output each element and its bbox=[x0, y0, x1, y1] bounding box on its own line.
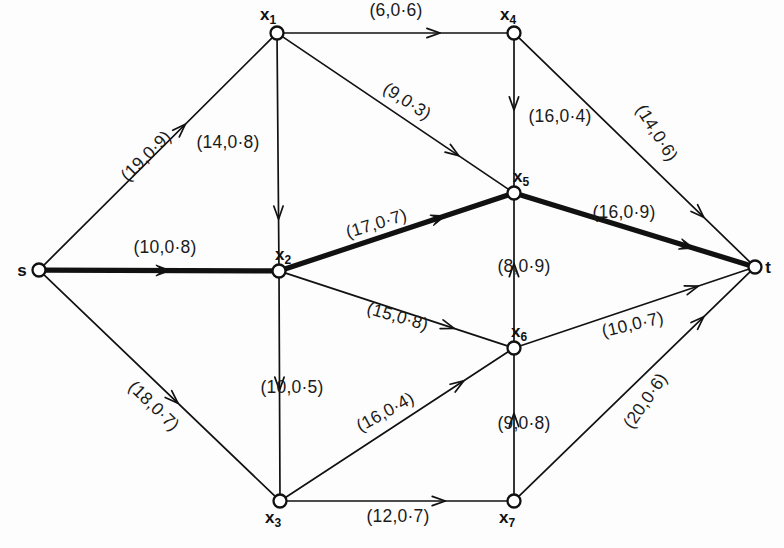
edge-label-x5-t: (16,0·9) bbox=[593, 202, 656, 222]
arrowhead-x1-x5 bbox=[445, 144, 459, 155]
edge-label-s-x1: (19,0·9) bbox=[116, 126, 175, 185]
node-label-x5: x5 bbox=[513, 167, 529, 189]
edge-label-x1-x5: (9,0·3) bbox=[380, 78, 435, 124]
arrowheads-layer bbox=[156, 28, 704, 505]
edge-s-x3 bbox=[44, 275, 275, 496]
edge-label-s-x2: (10,0·8) bbox=[134, 237, 197, 257]
edge-label-x6-x5: (8,0·9) bbox=[498, 256, 551, 276]
edge-label-x7-t: (20,0·6) bbox=[619, 369, 671, 432]
node-label-s: s bbox=[17, 261, 26, 280]
node-label-x1: x1 bbox=[260, 5, 276, 27]
node-label-x2: x2 bbox=[275, 245, 291, 267]
edge-x1-x5 bbox=[283, 37, 508, 189]
edge-label-x4-x5: (16,0·4) bbox=[529, 106, 592, 126]
edge-label-x6-t: (10,0·7) bbox=[600, 307, 666, 341]
node-x1 bbox=[271, 27, 284, 40]
edge-x1-x2 bbox=[277, 40, 279, 264]
node-x5 bbox=[508, 187, 521, 200]
node-label-x6: x6 bbox=[511, 322, 527, 344]
node-x4 bbox=[508, 27, 521, 40]
edge-x7-t bbox=[519, 272, 750, 496]
edge-label-x1-x4: (6,0·6) bbox=[370, 0, 423, 20]
edge-label-s-x3: (18,0·7) bbox=[125, 377, 184, 435]
edge-x3-x6 bbox=[286, 352, 508, 497]
node-t bbox=[749, 261, 762, 274]
edge-label-x1-x2: (14,0·8) bbox=[197, 132, 260, 152]
node-label-x4: x4 bbox=[500, 5, 516, 27]
node-label-x7: x7 bbox=[499, 508, 515, 530]
edge-label-x2-x3: (10,0·5) bbox=[261, 377, 324, 397]
node-x7 bbox=[508, 495, 521, 508]
node-label-x3: x3 bbox=[265, 508, 281, 530]
arrowhead-x3-x6 bbox=[450, 381, 464, 392]
edge-label-x3-x7: (12,0·7) bbox=[367, 506, 430, 526]
node-label-t: t bbox=[765, 258, 771, 277]
edge-label-x7-x6: (9,0·8) bbox=[498, 413, 551, 433]
node-x6 bbox=[508, 342, 521, 355]
graph-canvas: (19,0·9)(10,0·8)(18,0·7)(6,0·6)(14,0·8)(… bbox=[0, 0, 784, 548]
edge-labels-layer: (19,0·9)(10,0·8)(18,0·7)(6,0·6)(14,0·8)(… bbox=[116, 0, 682, 526]
edge-label-x3-x6: (16,0·4) bbox=[353, 388, 418, 436]
node-x3 bbox=[274, 495, 287, 508]
edge-s-x2 bbox=[46, 270, 272, 271]
network-flow-diagram: (19,0·9)(10,0·8)(18,0·7)(6,0·6)(14,0·8)(… bbox=[0, 0, 784, 548]
node-s bbox=[33, 264, 46, 277]
edge-label-x2-x6: (15,0·8) bbox=[365, 298, 431, 335]
